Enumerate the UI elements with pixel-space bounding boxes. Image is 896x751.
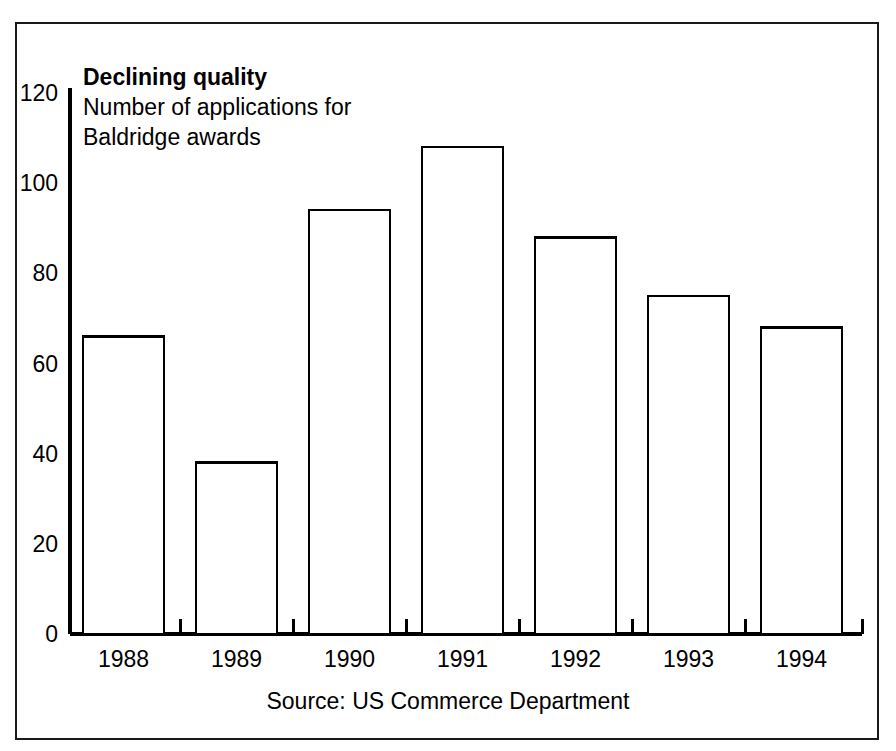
y-tick-label-20: 20 xyxy=(0,533,58,556)
bar-1988 xyxy=(83,336,164,634)
bar-1991 xyxy=(422,147,503,634)
source-note: Source: US Commerce Department xyxy=(0,688,896,714)
y-tick-label-0: 0 xyxy=(0,623,58,646)
y-tick-label-120: 120 xyxy=(0,82,58,105)
chart-subtitle-line-2: Baldridge awards xyxy=(83,122,503,152)
chart-title-block: Declining quality Number of applications… xyxy=(83,62,503,152)
bar-1994 xyxy=(761,327,842,634)
bar-1990 xyxy=(309,210,390,634)
x-tick-label-1990: 1990 xyxy=(299,648,400,671)
x-tick-label-1994: 1994 xyxy=(751,648,852,671)
y-tick-label-40: 40 xyxy=(0,443,58,466)
y-tick-label-100: 100 xyxy=(0,172,58,195)
x-tick-label-1992: 1992 xyxy=(525,648,626,671)
bar-1992 xyxy=(535,237,616,634)
chart-figure: 020406080100120 198819891990199119921993… xyxy=(0,0,896,751)
y-tick-label-80: 80 xyxy=(0,262,58,285)
chart-subtitle-line-1: Number of applications for xyxy=(83,92,503,122)
y-tick-label-60: 60 xyxy=(0,353,58,376)
bar-1989 xyxy=(196,463,277,634)
chart-title: Declining quality xyxy=(83,62,503,92)
x-tick-label-1988: 1988 xyxy=(73,648,174,671)
x-tick-label-1989: 1989 xyxy=(186,648,287,671)
x-tick-label-1991: 1991 xyxy=(412,648,513,671)
x-tick-label-1993: 1993 xyxy=(638,648,739,671)
bar-1993 xyxy=(648,296,729,634)
bars-group xyxy=(83,147,842,634)
